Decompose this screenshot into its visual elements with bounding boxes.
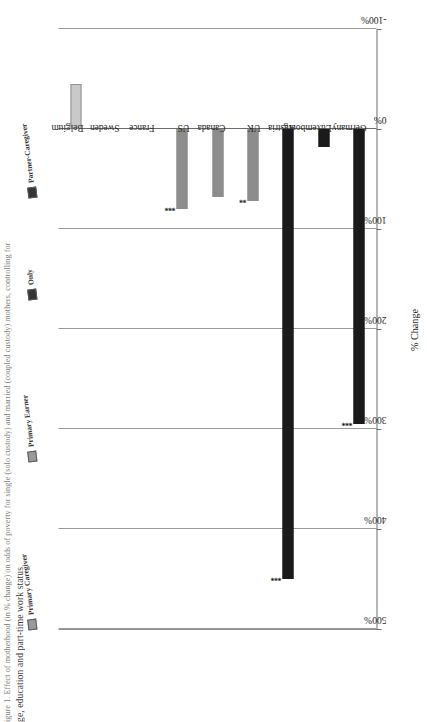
axis-tick-label-text: 200%: [364, 316, 386, 327]
category-label-belgium: Belgium: [51, 123, 83, 133]
axis-tick: [376, 329, 381, 330]
legend-swatch-icon: [27, 289, 37, 301]
category-label-uk: UK: [246, 123, 259, 133]
legend-item-2: Only: [24, 269, 37, 301]
significance-marker: **: [239, 195, 246, 204]
axis-tick: [376, 29, 381, 30]
axis-tick: [376, 229, 381, 230]
significance-marker: ***: [341, 418, 352, 427]
bar-uk: [247, 129, 258, 201]
figure-caption-line-1: igure 1. Effect of motherhood (in % chan…: [2, 0, 12, 722]
bar-austria: [282, 129, 293, 579]
category-label-france: France: [129, 123, 154, 133]
gridline--100%: [58, 28, 376, 29]
axis-tick: [376, 129, 381, 130]
axis-tick-label-text: 500%: [364, 616, 386, 627]
axis-tick: [376, 529, 381, 530]
category-label-sweden: Sweden: [89, 123, 118, 133]
category-label-us: US: [177, 123, 189, 133]
axis-tick: [376, 429, 381, 430]
category-label-austria: Austria: [268, 123, 295, 133]
chart-legend: Primary CaregiverPrimary EarnerOnlyPartn…: [28, 30, 52, 630]
plot-area: Germany***LuxembourgAustria***UK**Canada…: [58, 29, 376, 630]
legend-swatch-icon: [27, 187, 37, 199]
axis-tick-label-text: 100%: [364, 216, 386, 227]
axis-tick-label-text: -100%: [360, 16, 386, 27]
significance-marker: ***: [271, 573, 282, 582]
legend-item-label: Only: [24, 269, 35, 286]
gridline-400%: [58, 528, 376, 529]
axis-tick-label-text: 300%: [364, 416, 386, 427]
category-label-canada: Canada: [197, 123, 225, 133]
axis-tick-label-text: 0%: [373, 116, 386, 127]
axis-title: % Change: [408, 30, 419, 630]
rotated-figure-canvas: igure 1. Effect of motherhood (in % chan…: [0, 0, 427, 722]
bar-germany: [353, 129, 364, 424]
gridline-300%: [58, 428, 376, 429]
bar-us: [176, 129, 187, 209]
bar-canada: [212, 129, 223, 197]
axis-tick: [376, 629, 381, 630]
axis-title-text: % Change: [408, 309, 419, 351]
legend-swatch-icon: [27, 451, 37, 463]
legend-swatch-icon: [27, 619, 37, 631]
gridline-100%: [58, 228, 376, 229]
gridline-500%: [58, 628, 376, 629]
category-label-germany: Germany: [331, 123, 366, 133]
gridline-200%: [58, 328, 376, 329]
figure-caption-line-2: ge, education and part-time work status: [14, 0, 24, 722]
significance-marker: ***: [165, 203, 176, 212]
axis-tick-label-text: 400%: [364, 516, 386, 527]
